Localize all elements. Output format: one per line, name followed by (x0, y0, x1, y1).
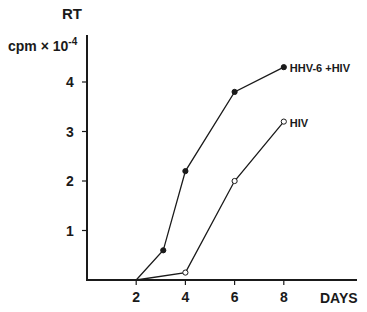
open-point-marker (232, 178, 237, 183)
y-axis-title: RT cpm × 10-4 (8, 5, 82, 54)
y-tick-label: 1 (66, 223, 74, 239)
svg-text:cpm × 10-4: cpm × 10-4 (8, 36, 78, 54)
y-tick-label: 2 (66, 173, 74, 189)
series-line (136, 67, 284, 280)
open-point-marker (183, 270, 188, 275)
y-ticks: 1234 (66, 74, 87, 239)
x-ticks: 2468 (132, 280, 288, 305)
y-tick-label: 4 (66, 74, 74, 90)
y-tick-label: 3 (66, 124, 74, 140)
y-axis-title-rt: RT (62, 5, 82, 22)
filled-point-marker (183, 169, 188, 174)
x-tick-label: 2 (132, 289, 140, 305)
series-label: HIV (290, 117, 309, 129)
x-tick-label: 6 (231, 289, 239, 305)
x-axis-title: DAYS (320, 290, 358, 306)
open-point-marker (281, 119, 286, 124)
rt-chart: RT cpm × 10-4 1234 2468 DAYS HHV-6 +HIVH… (0, 0, 367, 312)
series-hiv: HIV (136, 117, 309, 280)
filled-point-marker (232, 89, 237, 94)
y-axis-exponent: -4 (68, 36, 77, 47)
filled-point-marker (281, 65, 286, 70)
y-axis-unit: cpm × 10 (8, 38, 69, 54)
x-tick-label: 4 (182, 289, 190, 305)
series-label: HHV-6 +HIV (290, 62, 351, 74)
series-layer: HHV-6 +HIVHIV (136, 62, 350, 280)
x-tick-label: 8 (280, 289, 288, 305)
filled-point-marker (161, 248, 166, 253)
